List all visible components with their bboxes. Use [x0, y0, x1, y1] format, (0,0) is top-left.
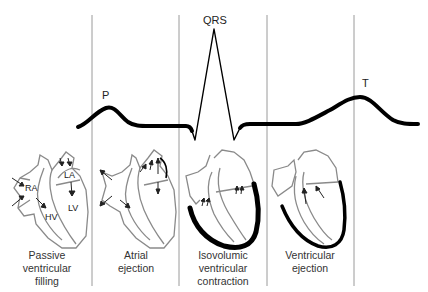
p-wave-label: P	[102, 90, 109, 101]
caption-line: ventricular	[180, 262, 266, 275]
caption-line: Isovolumic	[180, 249, 266, 262]
cardiac-cycle-diagram: P QRS T RA LA HV LV Passive ventricular …	[0, 0, 428, 292]
chamber-label-la: LA	[64, 171, 75, 180]
caption-line: contraction	[180, 275, 266, 288]
caption-line: filling	[4, 275, 90, 288]
chamber-label-hv: HV	[45, 213, 58, 222]
caption-atrial-ejection: Atrial ejection	[93, 249, 179, 275]
caption-isovolumic-ventricular-contraction: Isovolumic ventricular contraction	[180, 249, 266, 288]
heart-arrows-isovolumic	[201, 186, 244, 206]
caption-line: Passive	[4, 249, 90, 262]
caption-line: ejection	[93, 262, 179, 275]
caption-line: ejection	[267, 262, 353, 275]
caption-ventricular-ejection: Ventricular ejection	[267, 249, 353, 275]
ecg-p-wave-segment	[78, 107, 192, 131]
caption-line: ventricular	[4, 262, 90, 275]
caption-line: Atrial	[93, 249, 179, 262]
t-wave-label: T	[362, 78, 369, 89]
caption-line: Ventricular	[267, 249, 353, 262]
caption-passive-ventricular-filling: Passive ventricular filling	[4, 249, 90, 288]
ecg-qrs-complex	[192, 29, 240, 140]
chamber-label-ra: RA	[25, 184, 38, 193]
qrs-complex-label: QRS	[203, 15, 227, 26]
heart-arrows-ventricular-ejection	[302, 186, 324, 204]
heart-contracting-wall-isovolumic	[190, 184, 258, 247]
heart-illustration-passive-filling	[14, 152, 88, 248]
heart-contracting-wall-ventricular-ejection	[282, 182, 345, 247]
chamber-label-lv: LV	[68, 204, 78, 213]
